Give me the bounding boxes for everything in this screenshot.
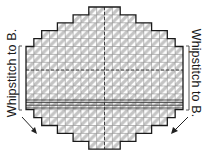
stitch-grid xyxy=(0,0,206,152)
whipstitch-label-left: Whipstitch to B. xyxy=(5,23,19,123)
whipstitch-label-right: Whipstitch to B. xyxy=(189,23,203,123)
bracket-left xyxy=(19,46,22,110)
arrow-down-left-icon xyxy=(171,117,188,134)
arrow-down-right-icon xyxy=(22,117,37,134)
canvas-diagram: Whipstitch to B. Whipstitch to B. xyxy=(0,0,206,152)
